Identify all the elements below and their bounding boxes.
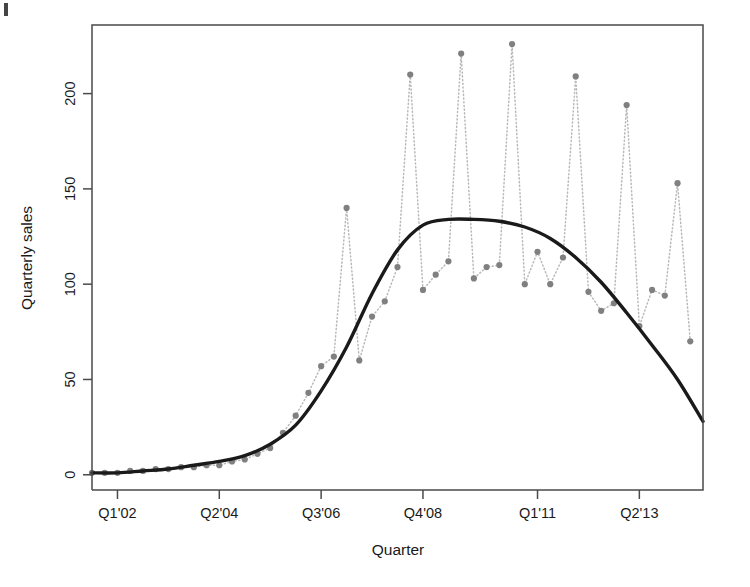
scan-artifact-mark [4, 3, 8, 16]
data-point [560, 254, 566, 260]
data-point [496, 262, 502, 268]
y-tick-label: 200 [62, 82, 78, 106]
data-point [547, 281, 553, 287]
data-point [522, 281, 528, 287]
data-point [318, 363, 324, 369]
data-point [687, 338, 693, 344]
data-point [343, 205, 349, 211]
data-point [509, 41, 515, 47]
data-point [573, 73, 579, 79]
data-point [662, 293, 668, 299]
data-point [471, 275, 477, 281]
y-tick-label: 150 [62, 177, 78, 201]
data-point [394, 264, 400, 270]
y-axis: 050100150200 [62, 82, 92, 479]
x-tick-label: Q3'06 [302, 505, 340, 521]
y-tick-label: 100 [62, 272, 78, 296]
plot-frame [92, 25, 703, 490]
data-point [484, 264, 490, 270]
data-point [433, 272, 439, 278]
y-tick-label: 0 [62, 471, 78, 479]
y-tick-label: 50 [62, 371, 78, 387]
data-point [382, 298, 388, 304]
x-tick-label: Q4'08 [404, 505, 442, 521]
x-tick-label: Q1'02 [98, 505, 136, 521]
data-point [534, 249, 540, 255]
x-axis: Q1'02Q2'04Q3'06Q4'08Q1'11Q2'13 [98, 490, 658, 521]
trend-curve [92, 219, 703, 473]
data-point [407, 71, 413, 77]
data-point [331, 354, 337, 360]
data-point [585, 289, 591, 295]
x-tick-label: Q1'11 [519, 505, 556, 521]
data-point [420, 287, 426, 293]
x-tick-label: Q2'04 [200, 505, 238, 521]
data-point [624, 102, 630, 108]
data-point [445, 258, 451, 264]
x-axis-title: Quarter [372, 541, 425, 558]
data-point [356, 357, 362, 363]
y-axis-title: Quarterly sales [18, 206, 35, 310]
quarterly-sales-chart: 050100150200 Q1'02Q2'04Q3'06Q4'08Q1'11Q2… [0, 0, 750, 587]
data-point [649, 287, 655, 293]
data-point [305, 390, 311, 396]
chart-figure: 050100150200 Q1'02Q2'04Q3'06Q4'08Q1'11Q2… [0, 0, 750, 587]
data-point [674, 180, 680, 186]
data-point [458, 50, 464, 56]
x-tick-label: Q2'13 [620, 505, 658, 521]
data-point [598, 308, 604, 314]
data-point [369, 313, 375, 319]
data-point [293, 413, 299, 419]
